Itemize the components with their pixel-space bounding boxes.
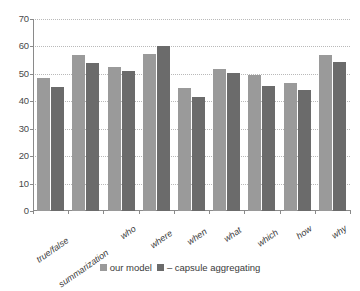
bar [37,78,50,211]
bar-groups [33,19,350,211]
y-axis-tick-label: 70 [3,14,29,24]
y-axis-tick-label: 40 [3,96,29,106]
bar [333,62,346,211]
bar-group [315,19,350,211]
legend-item-our-model: our model [100,262,152,273]
x-axis-tick-label: why [330,223,349,240]
chart-legend: our model – capsule aggregating [0,262,360,273]
x-axis-tick-label: how [294,223,313,241]
y-axis-tick-label: 60 [3,41,29,51]
bar [227,73,240,211]
bar-group [244,19,279,211]
x-axis-tick-label: which [255,227,280,248]
bar [72,55,85,211]
legend-label: – capsule aggregating [167,262,261,273]
bar [213,69,226,211]
bar [192,97,205,211]
bar [108,67,121,211]
bar [248,75,261,211]
legend-swatch-icon [157,264,164,271]
x-axis-tick-label: what [222,225,243,244]
bar [319,55,332,211]
x-axis-tick-label: true/false [35,235,71,264]
x-axis-tick-labels: true/falsesummarizationwhowherewhenwhatw… [33,211,350,257]
bar-group [139,19,174,211]
y-axis-tick-label: 30 [3,124,29,134]
y-axis-tick-label: 20 [3,151,29,161]
bar [262,86,275,211]
bar-group [68,19,103,211]
bar-group [174,19,209,211]
bar [178,88,191,211]
bar [51,87,64,211]
y-axis-tick-label: 10 [3,179,29,189]
y-axis-tick-label: 0 [3,206,29,216]
x-axis-tick-label: who [118,223,137,241]
legend-swatch-icon [100,264,107,271]
legend-label: our model [110,262,152,273]
x-axis-tick-mark [350,210,351,214]
bar-group [209,19,244,211]
bar-group [280,19,315,211]
bar [284,83,297,211]
x-axis-tick-label: where [148,228,174,250]
bar-chart: 010203040506070 true/falsesummarizationw… [0,0,360,291]
bar [122,71,135,211]
bar [86,63,99,211]
bar-group [103,19,138,211]
bar [143,54,156,211]
y-axis-tick-label: 50 [3,69,29,79]
legend-item-capsule-aggregating: – capsule aggregating [157,262,261,273]
bar [157,46,170,211]
bar [298,90,311,211]
x-axis-tick-label: when [186,226,209,247]
bar-group [33,19,68,211]
